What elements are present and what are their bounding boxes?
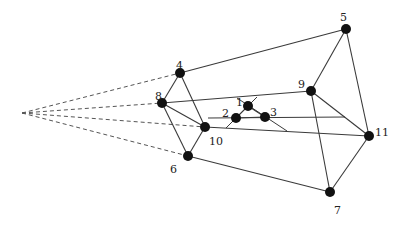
node-label-3: 3 <box>270 106 277 119</box>
edge-6-10 <box>188 127 205 156</box>
edge-6-7 <box>188 156 330 192</box>
node-11 <box>364 131 374 141</box>
edge-7-11 <box>330 136 369 192</box>
graph-edges <box>162 29 369 192</box>
node-label-6: 6 <box>170 163 177 176</box>
edge-4-5 <box>180 29 346 73</box>
node-10 <box>200 122 210 132</box>
graph-svg: 1234567891011 <box>0 0 404 227</box>
edge-4-8 <box>162 73 180 103</box>
node-label-11: 11 <box>375 126 389 139</box>
edge-10-11 <box>205 127 369 136</box>
node-label-2: 2 <box>222 107 229 120</box>
node-5 <box>341 24 351 34</box>
node-labels: 1234567891011 <box>155 11 389 217</box>
edge-9-7 <box>311 91 330 192</box>
graph-diagram: 1234567891011 <box>0 0 404 227</box>
dashed-projection-lines <box>22 73 205 156</box>
node-label-10: 10 <box>209 135 223 148</box>
node-label-7: 7 <box>334 204 341 217</box>
node-3 <box>260 112 270 122</box>
node-label-9: 9 <box>298 78 305 91</box>
node-9 <box>306 86 316 96</box>
edge-8-6 <box>162 103 188 156</box>
node-label-1: 1 <box>236 96 243 109</box>
node-2 <box>231 113 241 123</box>
node-7 <box>325 187 335 197</box>
edge-5-11 <box>346 29 369 136</box>
node-label-8: 8 <box>155 90 162 103</box>
node-label-4: 4 <box>176 59 183 72</box>
edge-5-9 <box>311 29 346 91</box>
node-1 <box>243 101 253 111</box>
dashed-line-to-6 <box>22 113 188 156</box>
node-label-5: 5 <box>340 11 347 24</box>
node-6 <box>183 151 193 161</box>
